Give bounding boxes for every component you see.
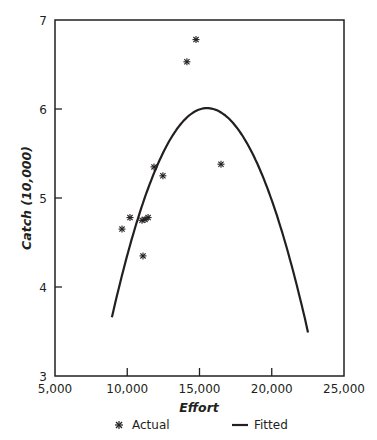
data-point [151, 163, 158, 170]
x-tick-label: 25,000 [323, 382, 365, 396]
y-tick-label: 4 [39, 281, 47, 295]
y-axis-title: Catch (10,000) [19, 146, 34, 250]
y-axis-ticks: 34567 [39, 14, 62, 384]
legend-actual-label: Actual [132, 418, 170, 432]
plot-frame [55, 20, 344, 376]
data-point [127, 214, 134, 221]
x-axis-title: Effort [179, 400, 220, 415]
legend: Actual Fitted [115, 418, 288, 432]
x-tick-label: 10,000 [106, 382, 148, 396]
x-axis-ticks: 5,00010,00015,00020,00025,000 [38, 368, 365, 396]
data-point [119, 226, 126, 233]
data-point [218, 161, 225, 168]
x-tick-label: 20,000 [251, 382, 293, 396]
y-tick-label: 7 [39, 14, 47, 28]
asterisk-icon [115, 421, 123, 429]
data-point [193, 36, 200, 43]
x-tick-label: 5,000 [38, 382, 72, 396]
catch-effort-chart: 34567 5,00010,00015,00020,00025,000 Effo… [0, 0, 377, 440]
legend-fitted-label: Fitted [254, 418, 288, 432]
data-point [159, 172, 166, 179]
plot-border [55, 20, 344, 376]
data-point [183, 58, 190, 65]
data-point [140, 252, 147, 259]
data-point [145, 214, 152, 221]
y-tick-label: 5 [39, 192, 47, 206]
y-tick-label: 6 [39, 103, 47, 117]
x-tick-label: 15,000 [179, 382, 221, 396]
actual-points [119, 36, 225, 259]
